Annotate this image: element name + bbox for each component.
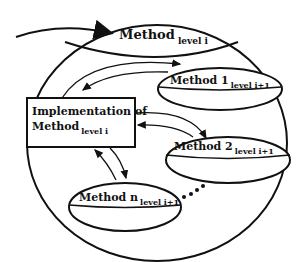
method-n-node: Method nlevel i+1 <box>69 183 181 231</box>
method-1-node: Method 1level i+1 <box>158 68 282 110</box>
arrow-method1-to-impl <box>83 72 168 90</box>
implementation-box: Implementation of Methodlevel i <box>27 98 148 147</box>
method-2-node: Method 2level i+1 <box>166 137 290 183</box>
arrow-methodn-to-impl <box>95 150 116 180</box>
continuation-dots <box>182 184 205 199</box>
entry-arrow <box>16 28 110 37</box>
arrow-method2-to-impl <box>138 125 193 137</box>
method-hierarchy-diagram: Methodlevel i Method 1level i+1 Method 2… <box>0 0 300 262</box>
top-method-divider <box>65 42 238 57</box>
svg-text:Implementation of: Implementation of <box>32 105 148 118</box>
